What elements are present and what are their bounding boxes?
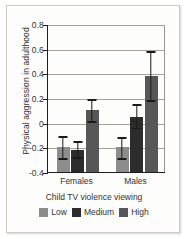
x-axis-title: Child TV violence viewing: [7, 192, 181, 202]
legend-label: Low: [51, 207, 67, 217]
bar: [116, 24, 129, 172]
error-cap-lower: [59, 158, 68, 159]
legend-label: High: [131, 207, 148, 217]
error-cap-upper: [88, 99, 97, 100]
y-axis-tick-label: 0.6: [32, 45, 46, 55]
bar: [57, 24, 70, 172]
bar: [145, 24, 158, 172]
bar-group: [107, 25, 166, 172]
error-cap-lower: [88, 121, 97, 122]
error-cap-lower: [147, 100, 156, 101]
y-axis-tick-label: 0.4: [32, 69, 46, 79]
error-cap-lower: [118, 158, 127, 159]
y-axis-tick-label: -0.4: [29, 168, 46, 178]
error-bar: [150, 51, 151, 100]
plot-area: 0.80.60.40.20-0.2-0.4: [47, 25, 165, 173]
bar: [86, 24, 99, 172]
y-axis-tick-label: 0: [39, 119, 46, 129]
chart-legend: LowMediumHigh: [7, 207, 181, 217]
error-bar: [62, 136, 63, 158]
legend-swatch-icon: [72, 208, 81, 217]
y-axis-tick-label: 0.8: [32, 20, 46, 30]
bar: [71, 24, 84, 172]
error-cap-upper: [147, 51, 156, 52]
legend-item[interactable]: Low: [39, 207, 67, 217]
legend-swatch-icon: [119, 208, 128, 217]
y-axis-tick-label: -0.2: [29, 143, 46, 153]
legend-label: Medium: [84, 207, 114, 217]
error-bar: [121, 137, 122, 158]
legend-swatch-icon: [39, 208, 48, 217]
bar-group: [48, 25, 107, 172]
x-axis-category-label: Females: [47, 176, 106, 186]
bar: [130, 24, 143, 172]
error-cap-upper: [73, 141, 82, 142]
legend-item[interactable]: Medium: [72, 207, 114, 217]
error-bar: [91, 99, 92, 121]
error-bar: [136, 104, 137, 127]
error-cap-lower: [132, 128, 141, 129]
error-cap-upper: [132, 104, 141, 105]
x-axis-category-label: Males: [106, 176, 165, 186]
y-axis-tick-label: 0.2: [32, 94, 46, 104]
bar-chart-figure: Physical aggression in adulthood 0.80.60…: [7, 6, 181, 234]
error-cap-upper: [118, 137, 127, 138]
legend-item[interactable]: High: [119, 207, 148, 217]
error-cap-lower: [73, 157, 82, 158]
error-cap-upper: [59, 136, 68, 137]
error-bar: [77, 141, 78, 157]
chart-card: Physical aggression in adulthood 0.80.60…: [6, 5, 180, 233]
